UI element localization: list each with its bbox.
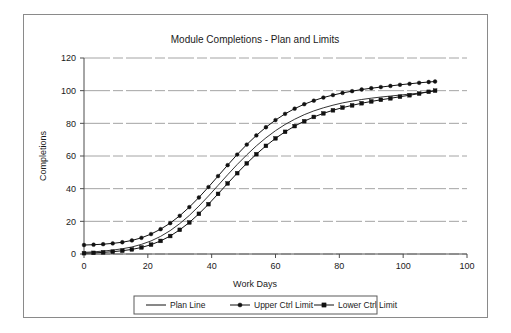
x-tick-label: 100 <box>459 261 474 271</box>
data-point-marker <box>178 228 182 232</box>
data-point-marker <box>433 80 437 84</box>
data-point-marker <box>187 205 191 209</box>
series-line-upper-ctrl-limit <box>84 82 435 246</box>
data-point-marker <box>283 112 287 116</box>
x-tick-label: 40 <box>207 261 217 271</box>
data-point-marker <box>226 163 230 167</box>
data-point-marker <box>379 98 383 102</box>
x-tick-label: 100 <box>396 261 411 271</box>
data-point-marker <box>254 152 258 156</box>
data-point-marker <box>140 246 144 250</box>
data-point-marker <box>379 85 383 89</box>
data-point-marker <box>140 236 144 240</box>
data-point-marker <box>130 248 134 252</box>
data-point-marker <box>159 239 163 243</box>
y-tick-label: 20 <box>66 217 76 227</box>
data-point-marker <box>264 144 268 148</box>
data-point-marker <box>101 242 105 246</box>
data-point-marker <box>331 93 335 97</box>
data-point-marker <box>226 182 230 186</box>
y-tick-label: 40 <box>66 184 76 194</box>
data-point-marker <box>312 115 316 119</box>
y-tick-label: 120 <box>61 53 76 63</box>
data-point-marker <box>398 95 402 99</box>
data-point-marker <box>149 232 153 236</box>
chart-title: Module Completions - Plan and Limits <box>171 34 339 45</box>
data-point-marker <box>331 108 335 112</box>
data-point-marker <box>168 221 172 225</box>
x-axis-ticks-group: 020406080100100 <box>81 254 474 271</box>
data-point-marker <box>389 84 393 88</box>
x-axis-title: Work Days <box>233 279 277 289</box>
data-point-marker <box>417 92 421 96</box>
data-point-marker <box>360 101 364 105</box>
data-point-marker <box>408 82 412 86</box>
y-tick-label: 0 <box>71 249 76 259</box>
x-tick-label: 60 <box>270 261 280 271</box>
data-point-marker <box>111 250 115 254</box>
data-point-marker <box>92 251 96 255</box>
data-point-marker <box>274 136 278 140</box>
legend-label-plan-line: Plan Line <box>170 300 206 310</box>
data-point-marker <box>350 89 354 93</box>
data-point-marker <box>321 111 325 115</box>
data-point-marker <box>168 234 172 238</box>
data-point-marker <box>312 99 316 103</box>
data-point-marker <box>82 251 86 255</box>
chart-frame: Module Completions - Plan and Limits 020… <box>23 14 488 318</box>
data-point-marker <box>302 102 306 106</box>
y-axis-title: Completions <box>38 130 48 181</box>
completions-line-chart: Module Completions - Plan and Limits 020… <box>24 15 487 317</box>
legend-items-group: Plan LineUpper Ctrl LimitLower Ctrl Limi… <box>146 300 398 310</box>
data-point-marker <box>235 171 239 175</box>
x-tick-label: 0 <box>81 261 86 271</box>
legend-marker-square <box>322 303 326 307</box>
data-point-marker <box>302 119 306 123</box>
data-point-marker <box>149 243 153 247</box>
data-point-marker <box>197 212 201 216</box>
data-point-marker <box>207 202 211 206</box>
data-point-marker <box>283 130 287 134</box>
data-series-group <box>82 80 437 255</box>
data-point-marker <box>369 86 373 90</box>
data-point-marker <box>197 196 201 200</box>
data-point-marker <box>369 100 373 104</box>
data-point-marker <box>187 221 191 225</box>
data-point-marker <box>245 161 249 165</box>
chart-legend: Plan LineUpper Ctrl LimitLower Ctrl Limi… <box>134 296 398 314</box>
y-tick-label: 100 <box>61 86 76 96</box>
data-point-marker <box>264 125 268 129</box>
data-point-marker <box>417 81 421 85</box>
data-point-marker <box>120 240 124 244</box>
x-tick-label: 80 <box>334 261 344 271</box>
x-tick-label: 20 <box>143 261 153 271</box>
y-tick-label: 60 <box>66 151 76 161</box>
data-point-marker <box>92 243 96 247</box>
y-tick-label: 80 <box>66 119 76 129</box>
series-line-plan-line <box>84 91 435 253</box>
data-point-marker <box>254 134 258 138</box>
series-lower-ctrl-limit <box>82 89 437 255</box>
data-point-marker <box>216 174 220 178</box>
data-point-marker <box>293 107 297 111</box>
data-point-marker <box>207 185 211 189</box>
data-point-marker <box>427 80 431 84</box>
legend-label-upper-ctrl-limit: Upper Ctrl Limit <box>254 300 314 310</box>
y-axis-ticks-group: 020406080100120 <box>61 53 84 259</box>
data-point-marker <box>427 90 431 94</box>
data-point-marker <box>408 93 412 97</box>
data-point-marker <box>321 96 325 100</box>
data-point-marker <box>274 118 278 122</box>
data-point-marker <box>341 91 345 95</box>
data-point-marker <box>360 88 364 92</box>
series-plan-line <box>84 91 435 253</box>
legend-marker-circle <box>238 303 242 307</box>
data-point-marker <box>111 241 115 245</box>
data-point-marker <box>130 239 134 243</box>
legend-label-lower-ctrl-limit: Lower Ctrl Limit <box>338 300 398 310</box>
data-point-marker <box>398 83 402 87</box>
data-point-marker <box>235 153 239 157</box>
data-point-marker <box>433 89 437 93</box>
data-point-marker <box>350 103 354 107</box>
data-point-marker <box>82 243 86 247</box>
